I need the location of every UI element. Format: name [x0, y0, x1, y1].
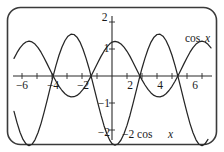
x-tick-label-neg4: −4 — [47, 79, 59, 91]
y-tick-label-neg1: −1 — [98, 97, 110, 109]
x-tick-label-neg6: −6 — [16, 79, 28, 91]
y-tick-label-pos1: 1 — [104, 42, 110, 54]
y-tick-label-pos2: 2 — [102, 11, 108, 23]
x-tick-label-neg2: −2 — [77, 79, 89, 91]
x-tick-label-pos6: 6 — [192, 79, 198, 91]
figure-container: −6 −4 −2 2 4 6 2 1 −1 −2 cos x −2 cos x — [0, 0, 224, 152]
cos-x-curve-label: cos x — [185, 32, 211, 44]
cos-x-label-text: cos — [185, 32, 201, 44]
cos-x-label-variable: x — [204, 32, 211, 44]
neg-2-cos-x-label-text: −2 cos — [122, 128, 153, 140]
cosine-graph-figure: −6 −4 −2 2 4 6 2 1 −1 −2 cos x −2 cos x — [0, 0, 224, 152]
x-tick-label-pos4: 4 — [157, 79, 163, 91]
x-tick-label-pos2: 2 — [127, 79, 133, 91]
y-tick-label-neg2: −2 — [98, 126, 110, 138]
neg-2-cos-x-label-variable: x — [167, 128, 174, 140]
